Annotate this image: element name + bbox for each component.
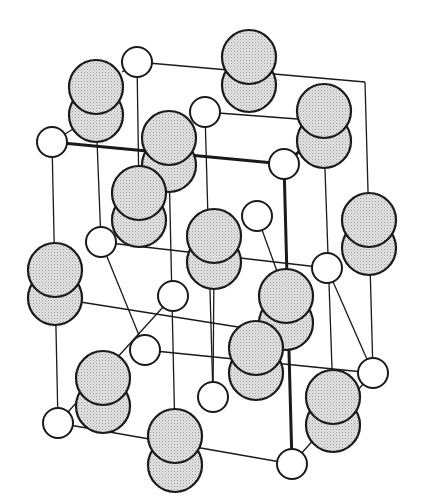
diatomic-molecule <box>297 84 351 168</box>
lattice-line <box>55 298 257 330</box>
lattice-line <box>327 268 373 373</box>
small-atom <box>242 201 272 231</box>
diatomic-molecule <box>69 60 123 142</box>
small-atom <box>37 127 67 157</box>
small-atom <box>158 281 188 311</box>
small-atom <box>43 408 73 438</box>
diatomic-molecule <box>28 243 82 325</box>
diatomic-molecule <box>222 30 276 112</box>
diatomic-molecule <box>112 166 166 247</box>
small-atom <box>86 227 116 257</box>
small-atom <box>277 449 307 479</box>
small-atom <box>198 382 228 412</box>
small-atom <box>130 335 160 365</box>
diatomic-molecule <box>148 409 202 492</box>
diatomic-molecule <box>342 193 396 275</box>
diatomic-molecule <box>76 351 130 433</box>
small-atom <box>312 253 342 283</box>
crystal-structure-diagram <box>0 0 427 503</box>
small-atom <box>122 47 152 77</box>
small-atom <box>190 97 220 127</box>
small-atom <box>358 358 388 388</box>
diatomic-molecule <box>187 209 241 289</box>
diatomic-molecule <box>229 321 283 400</box>
small-atom <box>269 149 299 179</box>
lattice-canvas <box>0 0 427 503</box>
diatomic-molecule <box>306 370 360 452</box>
